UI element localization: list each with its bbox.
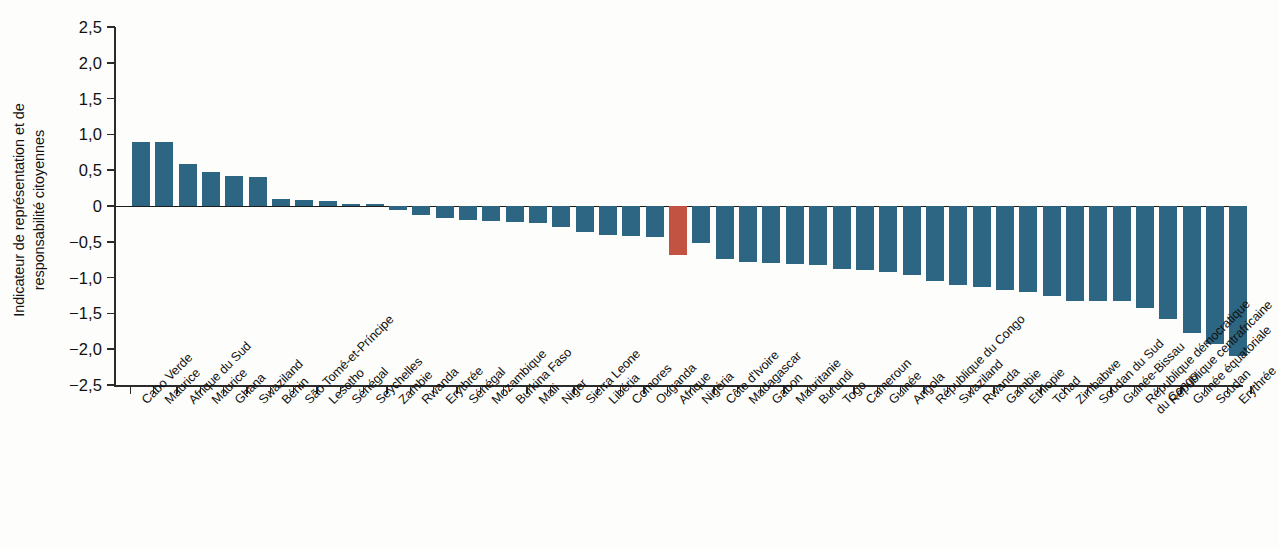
bar [996,206,1014,290]
y-tick-mark [107,348,115,350]
bar [225,176,243,206]
bar [833,206,851,269]
bar [622,206,640,236]
bar [552,206,570,227]
bar [1159,206,1177,319]
y-tick-label: 1,5 [58,89,102,108]
y-tick-label: −1,0 [58,268,102,287]
bar [179,164,197,206]
x-tick-mark [130,386,131,394]
bar [1089,206,1107,301]
bar [436,206,454,218]
y-tick-mark [107,98,115,100]
bar [529,206,547,223]
y-tick-label: 2,5 [58,18,102,37]
bar [762,206,780,263]
bar [692,206,710,243]
bar [412,206,430,215]
x-tick-label: Niger [559,376,590,407]
bar [506,206,524,222]
bar [1066,206,1084,301]
bar [1019,206,1037,292]
bar [1136,206,1154,308]
bar [809,206,827,265]
bar [926,206,944,281]
bar [155,142,173,206]
y-tick-mark [107,241,115,243]
bar [973,206,991,287]
bar [949,206,967,285]
y-tick-mark [107,313,115,315]
bar [1043,206,1061,296]
y-tick-label: −2,5 [58,376,102,395]
y-tick-label: −1,5 [58,304,102,323]
bar [366,204,384,206]
bar [646,206,664,237]
bar [295,200,313,206]
y-tick-mark [107,26,115,28]
bar [1183,206,1201,333]
bar [669,206,687,255]
y-axis-label: Indicateur de représentation et de respo… [0,0,60,420]
bar [739,206,757,262]
y-tick-label: 0,5 [58,161,102,180]
bar [249,177,267,206]
y-tick-label: 0 [58,197,102,216]
y-tick-mark [107,205,115,207]
bar [132,142,150,206]
y-tick-label: −2,0 [58,340,102,359]
bar [879,206,897,272]
y-tick-mark [107,62,115,64]
bar [576,206,594,232]
y-tick-mark [107,277,115,279]
y-tick-mark [107,169,115,171]
bar [716,206,734,259]
bar [319,201,337,206]
bar [342,204,360,206]
bar [389,206,407,210]
bar [1113,206,1131,301]
bar [903,206,921,275]
y-tick-label: 2,0 [58,53,102,72]
y-tick-label: 1,0 [58,125,102,144]
y-tick-label: −0,5 [58,232,102,251]
bar [459,206,477,220]
bar [786,206,804,264]
y-tick-mark [107,384,115,386]
y-tick-mark [107,134,115,136]
bar [272,199,290,206]
bar [482,206,500,221]
bar [599,206,617,235]
bar [856,206,874,270]
bar [202,172,220,206]
